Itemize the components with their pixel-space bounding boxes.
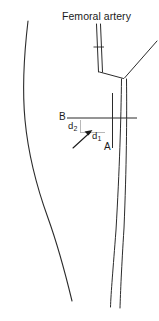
distance-d1-label: d1	[92, 131, 101, 141]
diagram-canvas	[0, 0, 159, 321]
artery-bifurcation-left-limb	[100, 72, 124, 79]
artery-branch-diagonal	[125, 41, 158, 78]
point-b-label: B	[59, 112, 66, 122]
limb-outline-curve	[24, 21, 72, 301]
femoral-artery-label: Femoral artery	[62, 11, 131, 22]
distance-d1-subscript: 1	[97, 135, 101, 142]
distance-d2-subscript: 2	[73, 125, 77, 132]
distance-d2-label: d2	[68, 121, 77, 131]
point-a-label: A	[104, 142, 111, 152]
anatomical-diagram: Femoral artery B A d2 d1	[0, 0, 159, 321]
artery-trunk-right-wall	[101, 24, 103, 72]
artery-trunk-left-wall	[97, 24, 99, 72]
